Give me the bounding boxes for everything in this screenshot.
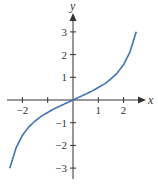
x-axis-arrow-icon [138, 97, 146, 104]
y-tick-label: −2 [55, 139, 67, 151]
x-tick-label: 2 [121, 104, 127, 116]
x-axis-label: x [147, 93, 154, 107]
y-tick-label: −1 [55, 117, 67, 129]
y-axis-arrow-icon [70, 13, 77, 21]
x-tick-label: 1 [96, 104, 102, 116]
y-axis-label: y [69, 0, 76, 13]
y-tick-label: 1 [62, 71, 68, 83]
chart-canvas: −212−3−2−1123 x y [0, 0, 158, 186]
y-tick-label: 2 [62, 49, 68, 61]
axes [7, 13, 146, 179]
y-tick-label: −3 [55, 162, 67, 174]
y-tick-label: 3 [62, 26, 68, 38]
x-tick-label: −2 [17, 104, 29, 116]
